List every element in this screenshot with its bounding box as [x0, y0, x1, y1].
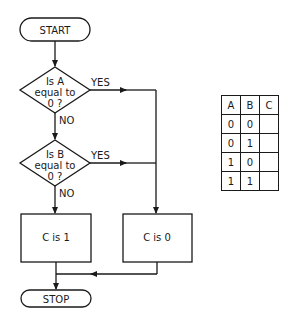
truth-table-header: A B C	[222, 96, 279, 115]
decision-b-line3: 0 ?	[48, 171, 63, 182]
start-terminator: START	[20, 18, 90, 41]
process-c-is-0: C is 0	[123, 214, 192, 262]
decision-b-no-label: NO	[59, 188, 74, 199]
cell-b: 0	[241, 153, 260, 172]
cell-c	[260, 115, 279, 134]
decision-b-yes-label: YES	[90, 150, 110, 161]
decision-a-no-label: NO	[59, 115, 74, 126]
truth-table: A B C 0 0 0 1 1 0 1 1	[221, 95, 279, 191]
table-row: 1 1	[222, 172, 279, 191]
cell-b: 1	[241, 172, 260, 191]
decision-a-line3: 0 ?	[48, 98, 63, 109]
decision-a-line1: Is A	[46, 76, 64, 87]
decision-b-line1: Is B	[46, 149, 64, 160]
decision-a-yes-label: YES	[90, 77, 110, 88]
table-row: 0 0	[222, 115, 279, 134]
table-row: 0 1	[222, 134, 279, 153]
cell-a: 0	[222, 134, 241, 153]
table-row: 1 0	[222, 153, 279, 172]
cell-a: 1	[222, 172, 241, 191]
cell-c	[260, 134, 279, 153]
decision-a-line2: equal to	[35, 87, 76, 98]
process-c-is-0-label: C is 0	[143, 232, 171, 243]
decision-b-line2: equal to	[35, 160, 76, 171]
stop-terminator: STOP	[21, 290, 91, 307]
stop-label: STOP	[43, 294, 69, 305]
cell-b: 0	[241, 115, 260, 134]
start-label: START	[40, 25, 72, 36]
header-c: C	[260, 96, 279, 115]
decision-a: Is A equal to 0 ?	[20, 67, 90, 113]
header-b: B	[241, 96, 260, 115]
cell-a: 1	[222, 153, 241, 172]
decision-b: Is B equal to 0 ?	[20, 140, 90, 186]
cell-b: 1	[241, 134, 260, 153]
header-a: A	[222, 96, 241, 115]
cell-c	[260, 153, 279, 172]
process-c-is-1-label: C is 1	[42, 232, 70, 243]
process-c-is-1: C is 1	[21, 214, 91, 262]
cell-c	[260, 172, 279, 191]
cell-a: 0	[222, 115, 241, 134]
